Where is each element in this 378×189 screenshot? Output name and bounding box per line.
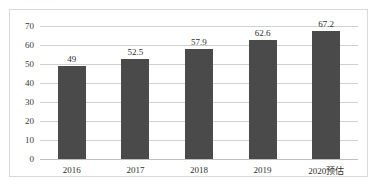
bar-2017[interactable] bbox=[121, 59, 149, 159]
ytick-label-70: 70 bbox=[12, 21, 34, 31]
ytick-label-40: 40 bbox=[12, 78, 34, 88]
gridline-0: 0 bbox=[40, 159, 358, 160]
ytick-label-0: 0 bbox=[12, 154, 34, 164]
bar-slot-2018: 57.9 bbox=[167, 26, 231, 159]
ytick-label-30: 30 bbox=[12, 97, 34, 107]
bar-2019[interactable] bbox=[249, 40, 277, 159]
chart-frame: 70 60 50 40 30 20 10 0 49 bbox=[9, 9, 368, 177]
ytick-label-50: 50 bbox=[12, 59, 34, 69]
bar-slot-2017: 52.5 bbox=[104, 26, 168, 159]
bars-layer: 49 52.5 57.9 62.6 67.2 bbox=[40, 26, 358, 159]
bar-value-2020: 67.2 bbox=[318, 19, 334, 29]
clipped-header-text: · ··· · ·· ··· bbox=[22, 0, 172, 6]
bar-value-2018: 57.9 bbox=[191, 37, 207, 47]
xaxis-labels: 2016 2017 2018 2019 2020预估 bbox=[40, 162, 358, 178]
xtick-label-2019: 2019 bbox=[231, 165, 295, 175]
bar-value-2017: 52.5 bbox=[128, 47, 144, 57]
ytick-label-20: 20 bbox=[12, 116, 34, 126]
bar-2016[interactable] bbox=[58, 66, 86, 159]
bar-value-2016: 49 bbox=[67, 54, 76, 64]
bar-slot-2016: 49 bbox=[40, 26, 104, 159]
bar-2018[interactable] bbox=[185, 49, 213, 159]
bar-2020[interactable] bbox=[312, 31, 340, 159]
bar-slot-2020: 67.2 bbox=[294, 26, 358, 159]
plot-area: 70 60 50 40 30 20 10 0 49 bbox=[40, 26, 358, 159]
xtick-label-2017: 2017 bbox=[104, 165, 168, 175]
bar-slot-2019: 62.6 bbox=[231, 26, 295, 159]
bar-value-2019: 62.6 bbox=[255, 28, 271, 38]
ytick-label-10: 10 bbox=[12, 135, 34, 145]
xtick-label-2020: 2020预估 bbox=[294, 164, 358, 177]
ytick-label-60: 60 bbox=[12, 40, 34, 50]
xtick-label-2018: 2018 bbox=[167, 165, 231, 175]
xtick-label-2016: 2016 bbox=[40, 165, 104, 175]
